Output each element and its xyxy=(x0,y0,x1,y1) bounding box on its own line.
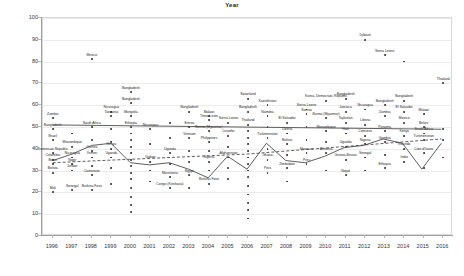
data-point xyxy=(247,124,249,126)
y-tick-mark xyxy=(38,126,41,127)
data-point xyxy=(345,122,347,124)
data-point-label: Liberia xyxy=(282,128,292,131)
data-point-label: Burkina Faso xyxy=(82,184,102,187)
data-point xyxy=(130,196,132,198)
data-point-label: Thailand xyxy=(241,119,254,122)
data-point xyxy=(130,178,132,180)
data-point xyxy=(130,139,132,141)
data-point xyxy=(345,111,347,113)
data-point xyxy=(247,137,249,139)
data-point-label: Kazakhstan xyxy=(259,99,277,102)
data-point xyxy=(169,152,171,154)
data-point-label: Nepal xyxy=(341,169,350,172)
data-point xyxy=(130,102,132,104)
data-point-label: Peru xyxy=(303,158,310,161)
data-point-label: Sierra Leone xyxy=(375,49,394,52)
data-point xyxy=(403,122,405,124)
data-point xyxy=(364,157,366,159)
x-tick-label: 2000 xyxy=(124,243,136,249)
data-point xyxy=(208,130,210,132)
data-point xyxy=(364,39,366,41)
data-point-label: Belize xyxy=(419,121,428,124)
data-point xyxy=(91,189,93,191)
y-tick-label: 0 xyxy=(12,232,38,238)
data-point xyxy=(91,174,93,176)
data-point xyxy=(267,159,269,161)
data-point xyxy=(306,163,308,165)
data-point-label: Jordan xyxy=(67,165,77,168)
data-point xyxy=(149,161,151,163)
data-point-label: Ghana xyxy=(262,154,272,157)
y-tick-mark xyxy=(38,148,41,149)
data-point-label: Mozambique xyxy=(63,141,82,144)
data-point-label: Zambia xyxy=(47,112,58,115)
data-point xyxy=(325,130,327,132)
data-point-label: Egypt xyxy=(185,169,194,172)
data-point xyxy=(403,161,405,163)
data-point xyxy=(228,157,230,159)
data-point xyxy=(345,98,347,100)
x-tick-label: 2013 xyxy=(378,243,390,249)
data-point-label: Afghanistan xyxy=(220,152,238,155)
data-point-label: Malawi xyxy=(418,108,429,111)
y-tick-label: 20 xyxy=(12,188,38,194)
data-point xyxy=(130,211,132,213)
data-point-label: Benin xyxy=(48,158,57,161)
data-point-label: Uganda xyxy=(164,147,176,150)
data-point-label: Mongolia xyxy=(124,110,138,113)
gridline xyxy=(43,214,451,215)
data-point-label: Bangladesh xyxy=(376,99,394,102)
x-tick-mark xyxy=(423,235,424,238)
data-point-label: Brazil xyxy=(49,134,57,137)
data-point-label: Swaziland xyxy=(240,93,255,96)
data-point-label: Panama xyxy=(378,126,391,129)
data-point xyxy=(228,122,230,124)
y-tick-label: 30 xyxy=(12,167,38,173)
data-point-label: Nicaragua xyxy=(143,123,158,126)
data-point-label: Tanzania xyxy=(105,110,119,113)
data-point xyxy=(52,172,54,174)
y-tick-label: 10 xyxy=(12,210,38,216)
y-tick-label: 80 xyxy=(12,58,38,64)
data-point-label: Mexico xyxy=(86,54,97,57)
data-point xyxy=(384,141,386,143)
data-point xyxy=(130,159,132,161)
data-point xyxy=(442,157,444,159)
y-tick-mark xyxy=(38,104,41,105)
x-tick-mark xyxy=(208,235,209,238)
data-point-label: Haiti xyxy=(342,128,349,131)
data-point-label: Zimbabwe xyxy=(279,163,295,166)
data-point xyxy=(149,143,151,145)
data-point-label: Tajikistan xyxy=(339,117,353,120)
x-tick-mark xyxy=(364,235,365,238)
x-tick-mark xyxy=(149,235,150,238)
y-tick-mark xyxy=(38,61,41,62)
data-point-label: Liberia xyxy=(360,119,370,122)
y-tick-label: 90 xyxy=(12,36,38,42)
data-point-label: Mauritania xyxy=(162,171,178,174)
data-point xyxy=(384,115,386,117)
data-point xyxy=(149,170,151,172)
data-point-label: Eritrea xyxy=(184,121,194,124)
data-point-label: Bangladesh xyxy=(239,106,257,109)
y-tick-mark xyxy=(38,235,41,236)
data-point-label: Gambia xyxy=(379,136,391,139)
data-point xyxy=(130,152,132,154)
x-tick-label: 1998 xyxy=(85,243,97,249)
data-point xyxy=(208,161,210,163)
data-point-label: Armenia xyxy=(320,147,333,150)
data-point xyxy=(325,100,327,102)
data-point-label: Senegal xyxy=(66,184,78,187)
data-point xyxy=(345,133,347,135)
data-point xyxy=(403,111,405,113)
gridline xyxy=(43,18,451,19)
data-point xyxy=(188,111,190,113)
data-point-label: El Salvador xyxy=(278,117,295,120)
data-point xyxy=(267,126,269,128)
data-point-label: Bangladesh xyxy=(122,86,140,89)
data-point-label: Thailand xyxy=(437,78,450,81)
chart-title: Year xyxy=(0,2,464,8)
data-point-label: Mali xyxy=(50,187,56,190)
data-point xyxy=(110,157,112,159)
data-point xyxy=(403,135,405,137)
